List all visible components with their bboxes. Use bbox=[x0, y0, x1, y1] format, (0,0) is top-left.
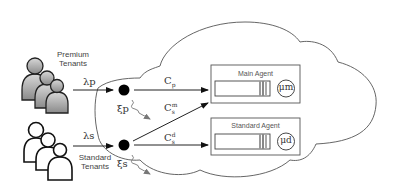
cp-label: Cp bbox=[164, 75, 176, 88]
csd-sup: d bbox=[172, 131, 176, 138]
cp-base: C bbox=[164, 75, 172, 86]
csm-sup: m bbox=[172, 101, 178, 108]
standard-label-line1: Standard bbox=[75, 153, 115, 162]
lambda-p-label: λp bbox=[83, 76, 96, 87]
csm-sub: s bbox=[172, 108, 175, 115]
standard-dispatcher-node bbox=[119, 140, 130, 151]
csd-base: C bbox=[164, 132, 172, 143]
standard-agent-queue bbox=[215, 134, 270, 149]
csm-label: Csm bbox=[164, 101, 177, 115]
mu-m-label: μm bbox=[277, 82, 295, 92]
mu-d-label: μd bbox=[277, 135, 295, 145]
cp-sub: p bbox=[172, 81, 176, 88]
premium-drop-arrow bbox=[131, 100, 150, 119]
premium-label-line2: Tenants bbox=[54, 59, 92, 68]
premium-dispatcher-node bbox=[119, 85, 130, 96]
premium-label-line1: Premium bbox=[54, 50, 92, 59]
standard-drop-arrow bbox=[131, 155, 150, 174]
xi-p-label: ξp bbox=[117, 103, 129, 114]
standard-label-line2: Tenants bbox=[75, 162, 115, 171]
standard-tenants-icon bbox=[24, 123, 72, 181]
lambda-s-label: λs bbox=[83, 130, 94, 141]
csd-sub: s bbox=[172, 138, 175, 145]
xi-s-label: ξs bbox=[117, 158, 128, 169]
standard-agent-title: Standard Agent bbox=[211, 122, 300, 129]
premium-tenants-label: Premium Tenants bbox=[54, 50, 92, 68]
main-agent-queue bbox=[215, 81, 270, 96]
csd-label: Csd bbox=[164, 131, 176, 145]
main-agent-title: Main Agent bbox=[211, 70, 300, 77]
standard-tenants-label: Standard Tenants bbox=[75, 153, 115, 171]
csm-base: C bbox=[164, 102, 172, 113]
diagram-canvas bbox=[0, 0, 397, 191]
